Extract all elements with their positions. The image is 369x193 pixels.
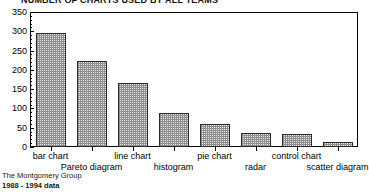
y-axis-tick-label: 350 — [12, 8, 27, 17]
y-axis-tick-label: 150 — [12, 85, 27, 94]
bar-series — [30, 12, 358, 147]
y-axis-tick-label: 300 — [12, 27, 27, 36]
x-axis-tick-label: scatter diagram — [306, 162, 368, 172]
bar — [36, 33, 66, 147]
x-axis-tick — [174, 147, 175, 151]
bar — [200, 124, 230, 147]
y-axis-tick-label: 50 — [17, 123, 27, 132]
y-axis-tick-label: 250 — [12, 46, 27, 55]
bar — [118, 83, 148, 147]
x-axis-tick-label: radar — [245, 162, 266, 172]
chart-title: NUMBER OF CHARTS USED BY ALL TEAMS — [21, 0, 218, 5]
footer-source: The Montgomery Group — [2, 171, 82, 181]
bar — [77, 61, 107, 147]
x-axis-tick-label: bar chart — [33, 151, 69, 161]
bar — [159, 113, 189, 147]
footer-period: 1988 - 1994 data — [2, 181, 82, 191]
bar — [241, 133, 271, 147]
y-axis-tick-label: 0 — [22, 143, 27, 152]
x-axis-tick — [256, 147, 257, 151]
y-axis-tick-label: 100 — [12, 104, 27, 113]
x-axis-tick-label: control chart — [272, 151, 322, 161]
y-axis-labels: 350300250200150100500 — [0, 0, 27, 160]
bar — [282, 134, 312, 148]
x-axis-tick-label: histogram — [154, 162, 194, 172]
footer: The Montgomery Group 1988 - 1994 data — [2, 171, 82, 190]
x-axis-tick-label: pie chart — [197, 151, 232, 161]
y-axis-major-tick — [30, 147, 34, 148]
x-axis-tick-label: line chart — [114, 151, 151, 161]
y-axis-tick-label: 200 — [12, 65, 27, 74]
x-axis-tick — [338, 147, 339, 151]
x-axis-tick — [92, 147, 93, 151]
